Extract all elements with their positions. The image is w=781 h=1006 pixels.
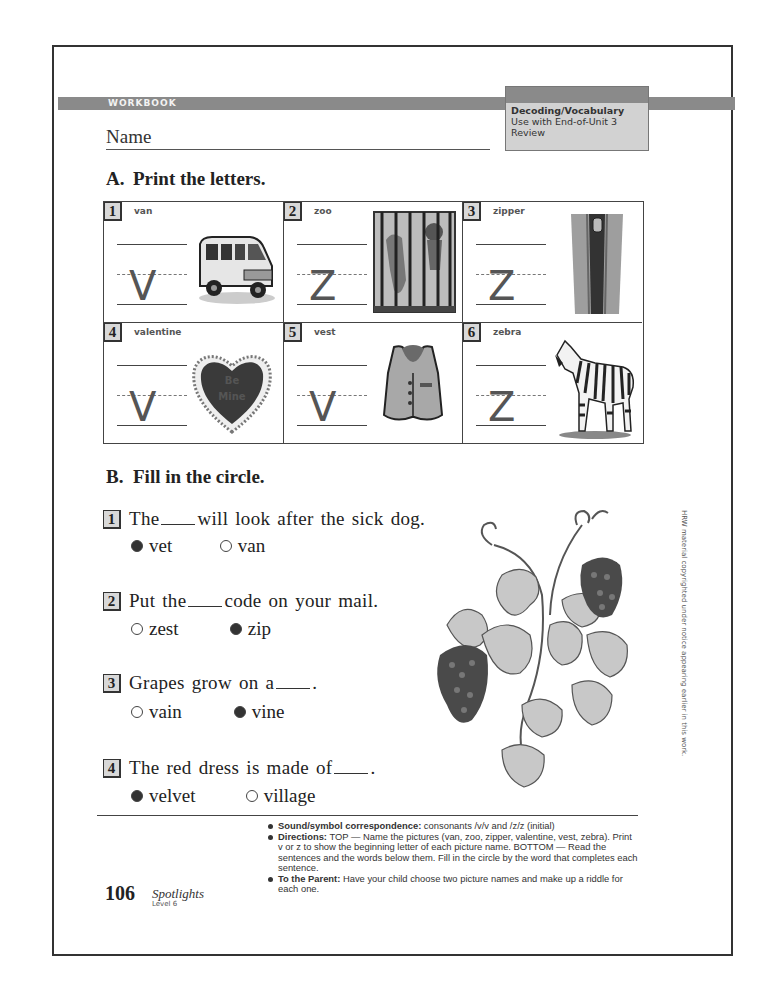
skill-box: Decoding/Vocabulary Use with End-of-Unit…: [505, 86, 649, 151]
question-1: 1Thewill look after the sick dog.: [103, 508, 425, 530]
note-directions: Directions: TOP — Name the pictures (van…: [268, 832, 638, 874]
letter-grid: 1 van V 2 zoo Z: [103, 201, 644, 444]
page-number: 106: [105, 882, 135, 905]
name-field[interactable]: Name: [106, 126, 490, 150]
grid-cell-van: 1 van V: [104, 202, 284, 323]
van-icon: [192, 232, 277, 307]
question-2: 2Put thecode on your mail.: [103, 590, 378, 612]
filled-circle-icon[interactable]: [131, 540, 143, 552]
option-vain[interactable]: vain: [131, 701, 229, 723]
option-vet[interactable]: vet: [131, 535, 215, 557]
option-vine[interactable]: vine: [234, 701, 285, 723]
skill-title: Decoding/Vocabulary: [511, 105, 624, 116]
footer-divider: [97, 815, 638, 816]
answer-blank: [276, 675, 310, 689]
answer-blank: [334, 760, 368, 774]
grid-cell-zebra: 6 zebra Z: [463, 323, 642, 443]
name-label: Name: [106, 126, 151, 147]
option-velvet[interactable]: velvet: [131, 785, 241, 807]
zebra-icon: [551, 333, 639, 441]
grid-cell-valentine: 4 valentine V Be Mine: [104, 323, 284, 443]
grid-cell-zoo: 2 zoo Z: [284, 202, 463, 323]
trace-letter[interactable]: V: [309, 387, 336, 427]
option-zest[interactable]: zest: [131, 618, 225, 640]
skill-line-3: Review: [511, 127, 624, 138]
question-3-options: vain vine: [131, 701, 284, 723]
trace-letter[interactable]: Z: [309, 266, 336, 306]
copyright-note: HRW material copyrighted under notice ap…: [676, 510, 688, 800]
zipper-icon: [567, 212, 627, 317]
empty-circle-icon[interactable]: [246, 790, 258, 802]
note-to-parent: To the Parent: Have your child choose tw…: [268, 874, 638, 895]
option-zip[interactable]: zip: [230, 618, 271, 640]
vest-icon: [380, 343, 446, 425]
section-a-title: A.Print the letters.: [106, 168, 265, 190]
section-b-title: B.Fill in the circle.: [106, 466, 265, 488]
filled-circle-icon[interactable]: [234, 706, 246, 718]
grape-vine-icon: [432, 505, 647, 795]
trace-letter[interactable]: V: [129, 266, 156, 306]
question-2-options: zest zip: [131, 618, 271, 640]
empty-circle-icon[interactable]: [220, 540, 232, 552]
workbook-label: WORKBOOK: [108, 97, 177, 110]
book-level: Level 6: [152, 900, 177, 908]
option-van[interactable]: van: [220, 535, 265, 557]
valentine-heart-icon: Be Mine: [190, 348, 274, 436]
answer-blank: [161, 511, 195, 525]
zoo-cage-icon: [372, 210, 457, 315]
grid-cell-vest: 5 vest V: [284, 323, 463, 443]
grid-cell-zipper: 3 zipper Z: [463, 202, 642, 323]
teacher-notes: Sound/symbol correspondence: consonants …: [268, 821, 638, 895]
trace-letter[interactable]: V: [129, 387, 156, 427]
question-4: 4The red dress is made of.: [103, 757, 376, 779]
option-village[interactable]: village: [246, 785, 316, 807]
svg-text:Mine: Mine: [218, 391, 245, 402]
filled-circle-icon[interactable]: [131, 790, 143, 802]
empty-circle-icon[interactable]: [131, 623, 143, 635]
question-4-options: velvet village: [131, 785, 315, 807]
question-3: 3Grapes grow on a.: [103, 672, 317, 694]
empty-circle-icon[interactable]: [131, 706, 143, 718]
question-1-options: vet van: [131, 535, 265, 557]
answer-blank: [188, 593, 222, 607]
trace-letter[interactable]: Z: [488, 266, 515, 306]
svg-text:Be: Be: [225, 375, 240, 386]
filled-circle-icon[interactable]: [230, 623, 242, 635]
trace-letter[interactable]: Z: [488, 387, 515, 427]
skill-line-2: Use with End-of-Unit 3: [511, 116, 624, 127]
